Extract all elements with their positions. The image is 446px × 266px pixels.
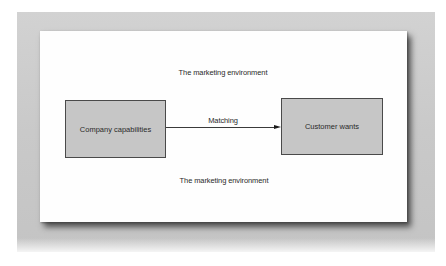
frame-fade xyxy=(0,238,446,266)
matching-arrow-line xyxy=(166,127,275,128)
environment-label-bottom: The marketing environment xyxy=(180,176,269,185)
matching-label: Matching xyxy=(208,116,238,125)
arrow-head-icon xyxy=(274,125,281,129)
company-capabilities-label: Company capabilities xyxy=(80,125,151,134)
customer-wants-label: Customer wants xyxy=(305,122,359,131)
customer-wants-box: Customer wants xyxy=(281,98,383,155)
company-capabilities-box: Company capabilities xyxy=(65,100,166,158)
environment-label-top: The marketing environment xyxy=(179,68,268,77)
